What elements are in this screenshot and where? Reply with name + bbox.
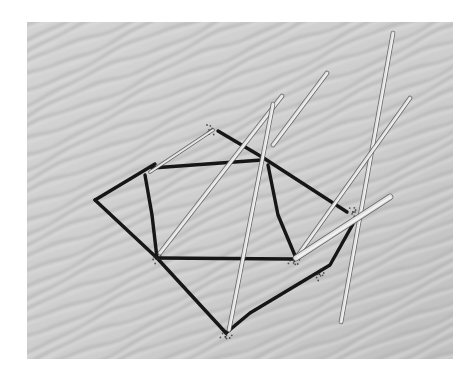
sand-background [27,22,453,359]
photo-scene [27,22,453,359]
drawn-line-inner-bottom [157,258,293,259]
sand-sticks-photograph: Black-and-white photograph of sticks and… [27,22,453,359]
